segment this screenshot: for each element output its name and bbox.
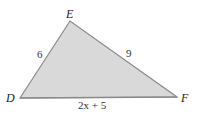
vertex-label-f: F [180, 91, 189, 105]
side-label-de: 6 [37, 48, 43, 60]
vertex-label-e: E [65, 7, 74, 21]
vertex-label-d: D [5, 91, 15, 105]
triangle-diagram: E D F 6 9 2x + 5 [0, 0, 199, 114]
triangle-def [20, 21, 177, 98]
side-label-df: 2x + 5 [78, 99, 107, 111]
side-label-ef: 9 [126, 47, 132, 59]
side-df [20, 97, 177, 98]
